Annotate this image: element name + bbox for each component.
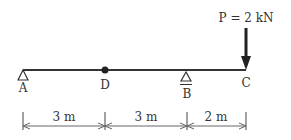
dimension-db: 3 m [135,110,158,124]
label-d: D [100,78,110,92]
pin-support-a-icon [18,70,28,80]
roller-support-b-icon [181,72,191,81]
label-b: B [183,87,192,101]
label-a: A [18,81,28,95]
dimension-ad: 3 m [53,110,76,124]
hinge-d-icon [102,67,109,74]
load-label: P = 2 kN [219,11,274,25]
label-c: C [241,76,250,90]
load-arrow-icon [241,56,251,70]
dimension-bc: 2 m [205,110,228,124]
beam-diagram: A D B C P = 2 kN 3 m 3 m 2 m [0,0,291,140]
